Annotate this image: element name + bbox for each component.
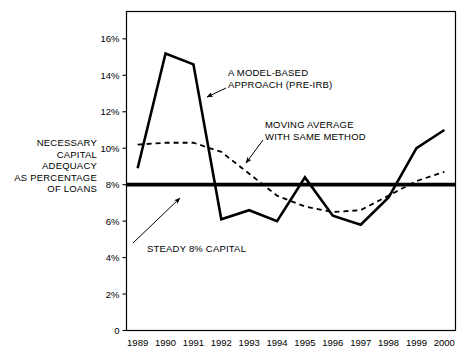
x-tick-label: 1992	[211, 337, 232, 348]
x-tick-label: 1997	[350, 337, 371, 348]
y-tick-label: 14%	[100, 70, 120, 81]
x-tick-label: 1989	[127, 337, 148, 348]
y-tick-label: 4%	[106, 252, 120, 263]
y-tick-label: 16%	[100, 33, 120, 44]
x-tick-label: 1993	[239, 337, 260, 348]
y-tick-label: 8%	[106, 179, 120, 190]
x-tick-label: 1995	[294, 337, 315, 348]
x-tick-label: 1990	[155, 337, 176, 348]
y-axis-title-line: OF LOANS	[47, 183, 97, 194]
annotation-label-model-based: A MODEL-BASED	[228, 67, 308, 78]
annotation-label-steady-8: STEADY 8% CAPITAL	[147, 243, 246, 254]
line-chart: 02%4%6%8%10%12%14%16% 198919901991199219…	[0, 0, 466, 361]
x-tick-label: 1999	[406, 337, 427, 348]
x-tick-label: 1996	[322, 337, 343, 348]
annotation-label-model-based: APPROACH (PRE-IRB)	[228, 79, 332, 90]
y-tick-label: 6%	[106, 216, 120, 227]
x-tick-label: 1994	[266, 337, 287, 348]
y-axis-title-line: NECESSARY	[37, 137, 98, 148]
y-tick-label: 0	[114, 325, 119, 336]
x-tick-label: 1991	[183, 337, 204, 348]
y-tick-label: 2%	[106, 289, 120, 300]
y-tick-label: 12%	[100, 106, 120, 117]
annotation-label-moving-average: WITH SAME METHOD	[265, 131, 366, 142]
x-tick-label: 2000	[434, 337, 455, 348]
chart-figure: 02%4%6%8%10%12%14%16% 198919901991199219…	[0, 0, 466, 361]
annotation-label-moving-average: MOVING AVERAGE	[265, 119, 354, 130]
y-axis-title-line: ADEQUACY	[42, 160, 97, 171]
y-axis-title-line: AS PERCENTAGE	[14, 172, 97, 183]
y-tick-label: 10%	[100, 143, 120, 154]
y-axis-title-line: CAPITAL	[57, 149, 97, 160]
x-tick-label: 1998	[378, 337, 399, 348]
